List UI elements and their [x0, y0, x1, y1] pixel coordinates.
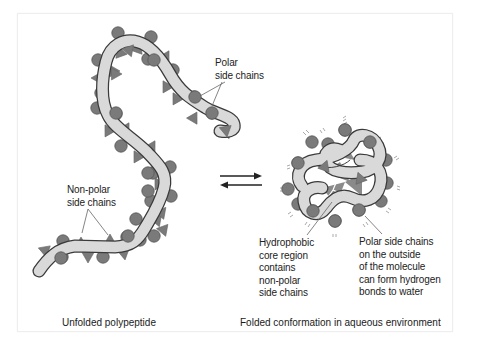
- caption-unfolded: Unfolded polypeptide: [62, 317, 156, 328]
- polar-leader-line-2: [212, 82, 222, 106]
- equilibrium-arrows: [220, 173, 262, 189]
- label-polar-side-chains: Polar side chains: [215, 57, 264, 82]
- protein-folding-diagram: [0, 0, 479, 362]
- unfolded-polypeptide: [36, 27, 234, 271]
- label-nonpolar-side-chains: Non-polar side chains: [67, 184, 116, 209]
- label-polar-outside: Polar side chains on the outside of the …: [359, 236, 441, 299]
- caption-folded: Folded conformation in aqueous environme…: [240, 317, 441, 328]
- nonpolar-leader-line-1: [82, 209, 88, 233]
- label-hydrophobic-core: Hydrophobic core region contains non-pol…: [259, 237, 314, 300]
- folded-protein: [280, 116, 400, 237]
- nonpolar-leader-line-2: [88, 209, 108, 235]
